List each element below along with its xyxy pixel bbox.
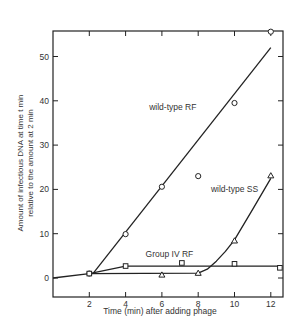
group-iv-rf-point [87,271,92,276]
group-iv-rf-label: Group IV RF [146,249,194,259]
wild-type-rf-point [232,100,237,105]
group-iv-rf-point [278,266,283,271]
group-iv-rf-point [123,264,128,269]
y-tick-label: 10 [40,229,50,239]
y-axis-label-line2: relative to the amount at 2 min [26,109,35,217]
x-tick-label: 2 [87,299,92,309]
x-tick-label: 12 [266,299,276,309]
wild-type-ss-label: wild-type SS [210,184,259,194]
wild-type-rf-label: wild-type RF [148,102,196,112]
x-tick-label: 10 [230,299,240,309]
x-axis-label: Time (min) after adding phage [103,306,217,316]
wild-type-rf-point [159,184,164,189]
group-iv-rf-point [180,261,185,266]
group-iv-rf-point [232,262,237,267]
y-tick-label: 30 [40,140,50,150]
x-axis: 24681012 [87,31,276,309]
series-layer: wild-type RFwild-type SSGroup IV RF [53,29,282,278]
y-tick-label: 40 [40,96,50,106]
y-tick-label: 20 [40,184,50,194]
wild-type-rf-line [93,48,271,274]
wild-type-rf-point [196,174,201,179]
chart: 24681012 01020304050 wild-type RFwild-ty… [0,0,301,323]
wild-type-ss-point [232,238,238,243]
wild-type-rf-point [123,232,128,237]
y-tick-label: 50 [40,52,50,62]
y-tick-label: 0 [44,273,49,283]
wild-type-rf-point [268,29,273,34]
wild-type-ss-point [268,173,274,178]
y-axis-label-line1: Amount of infectious DNA at time t min [16,95,25,232]
